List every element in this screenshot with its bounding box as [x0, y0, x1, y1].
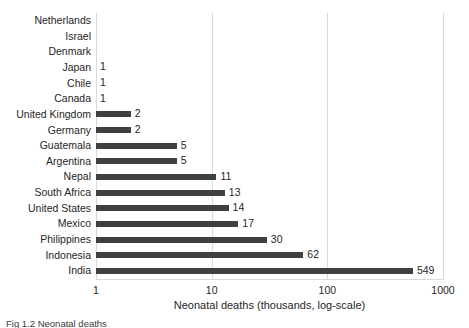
category-label: Nepal [0, 169, 91, 185]
bar-row [96, 29, 443, 45]
x-tick-label: 10 [206, 282, 218, 298]
bar-row: 1 [96, 60, 443, 76]
category-axis-labels: NetherlandsIsraelDenmarkJapanChileCanada… [0, 13, 91, 279]
bar-row: 62 [96, 248, 443, 264]
bar-row: 549 [96, 263, 443, 279]
bar-value-label: 1 [100, 59, 106, 74]
x-axis-line [96, 279, 444, 280]
neonatal-deaths-bar-chart: NetherlandsIsraelDenmarkJapanChileCanada… [0, 0, 469, 328]
category-label: United States [0, 201, 91, 217]
bar-value-label: 62 [307, 247, 319, 262]
figure-caption: Fig 1.2 Neonatal deaths [6, 318, 107, 328]
x-tick-label: 100 [319, 282, 337, 298]
category-label: Guatemala [0, 138, 91, 154]
bar-value-label: 549 [417, 263, 435, 278]
bar-value-label: 1 [100, 91, 106, 106]
bar [96, 143, 177, 149]
category-label: Israel [0, 29, 91, 45]
bar-value-label: 5 [181, 138, 187, 153]
category-label: Argentina [0, 154, 91, 170]
bar-row: 2 [96, 123, 443, 139]
category-label: United Kingdom [0, 107, 91, 123]
bar-value-label: 2 [135, 106, 141, 121]
bar [96, 127, 131, 133]
bar-value-label: 1 [100, 75, 106, 90]
category-label: Netherlands [0, 13, 91, 29]
bar-value-label: 17 [242, 216, 254, 231]
bar-row: 30 [96, 232, 443, 248]
bar-row: 14 [96, 201, 443, 217]
category-label: Canada [0, 91, 91, 107]
bar-row: 13 [96, 185, 443, 201]
category-label: Japan [0, 60, 91, 76]
x-tick-label: 1000 [431, 282, 454, 298]
bar-rows: 1112255111314173062549 [96, 13, 443, 279]
bar-value-label: 30 [271, 232, 283, 247]
x-axis-title: Neonatal deaths (thousands, log-scale) [96, 298, 443, 312]
bar [96, 174, 216, 180]
category-label: Philippines [0, 232, 91, 248]
bar-row: 1 [96, 91, 443, 107]
bar [96, 221, 238, 227]
bar [96, 158, 177, 164]
bar-value-label: 2 [135, 122, 141, 137]
x-tick-label: 1 [93, 282, 99, 298]
bar [96, 252, 303, 258]
category-label: South Africa [0, 185, 91, 201]
bar [96, 111, 131, 117]
category-label: Germany [0, 123, 91, 139]
bar-row: 2 [96, 107, 443, 123]
bar [96, 237, 267, 243]
bar-row [96, 44, 443, 60]
bar-row: 5 [96, 138, 443, 154]
plot-area: 1112255111314173062549 [96, 13, 443, 279]
bar-row: 11 [96, 169, 443, 185]
category-label: India [0, 263, 91, 279]
bar-value-label: 5 [181, 153, 187, 168]
gridline-1000 [443, 13, 444, 279]
bar [96, 268, 413, 274]
x-axis-tick-labels: 1101001000 [0, 282, 469, 298]
bar-value-label: 14 [233, 200, 245, 215]
bar [96, 205, 229, 211]
bar-row: 5 [96, 154, 443, 170]
bar-row [96, 13, 443, 29]
bar-row: 17 [96, 216, 443, 232]
bar [96, 190, 225, 196]
category-label: Mexico [0, 216, 91, 232]
category-label: Denmark [0, 44, 91, 60]
category-label: Indonesia [0, 248, 91, 264]
bar-row: 1 [96, 76, 443, 92]
bar-value-label: 13 [229, 185, 241, 200]
category-label: Chile [0, 76, 91, 92]
bar-value-label: 11 [220, 169, 231, 184]
